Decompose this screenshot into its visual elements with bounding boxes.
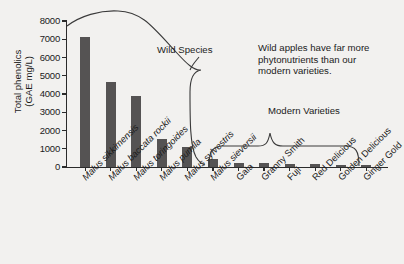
y-tick-label: 8000 [16,16,60,26]
y-tick-label-text: 6000 [20,53,60,63]
y-tick-label: 0 [16,162,60,172]
callout-line-1: Wild apples have far more [258,42,369,53]
y-tick-label-text: 5000 [20,71,60,81]
y-tick-label-text: 0 [20,162,60,172]
y-tick-label-text: 4000 [20,89,60,99]
y-tick-label-text: 1000 [20,144,60,154]
y-tick-label: 5000 [16,71,60,81]
y-tick-label: 2000 [16,126,60,136]
wild-species-label: Wild Species [157,44,212,56]
y-tick-label-text: 8000 [20,16,60,26]
y-tick-label: 4000 [16,89,60,99]
callout-line-3: modern varieties. [258,65,332,76]
y-axis-title-line2: (GAE mg/L) [23,56,34,107]
callout-note: Wild apples have far more phytonutrients… [258,42,390,77]
y-tick-label: 3000 [16,107,60,117]
y-tick-label: 7000 [16,34,60,44]
y-tick-label: 6000 [16,53,60,63]
modern-varieties-label: Modern Varieties [268,105,340,117]
y-tick-label-text: 2000 [20,126,60,136]
callout-line-2: phytonutrients than our [258,54,356,65]
y-tick-label-text: 3000 [20,107,60,117]
y-tick-label-text: 7000 [20,34,60,44]
y-tick-label: 1000 [16,144,60,154]
bar [80,37,90,167]
